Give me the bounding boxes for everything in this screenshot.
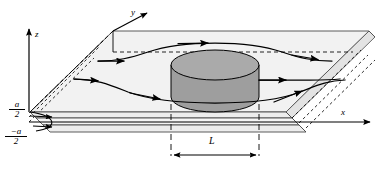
y-axis-label: y bbox=[131, 8, 135, 17]
slab-lower-wall bbox=[43, 125, 306, 132]
slab-upper-wall bbox=[30, 112, 292, 118]
flow-diagram-svg bbox=[0, 0, 381, 175]
gap-lower-numerator: −a bbox=[5, 127, 27, 136]
figure-canvas: z y x L a 2 −a 2 bbox=[0, 0, 381, 175]
z-axis-label: z bbox=[35, 30, 39, 39]
gap-upper-label: a 2 bbox=[9, 100, 25, 120]
gap-lower-denominator: 2 bbox=[5, 137, 27, 146]
length-label: L bbox=[209, 136, 215, 146]
gap-upper-numerator: a bbox=[9, 100, 25, 109]
cylinder-top-face bbox=[171, 50, 259, 80]
x-axis-label: x bbox=[341, 108, 345, 117]
gap-upper-denominator: 2 bbox=[9, 110, 25, 119]
gap-lower-label: −a 2 bbox=[5, 127, 27, 147]
y-axis-line bbox=[113, 13, 147, 31]
streamline-upper-arrow-mid bbox=[178, 43, 208, 44]
